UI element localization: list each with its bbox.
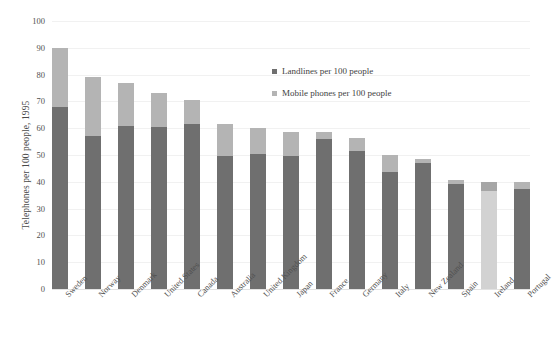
bar-denmark[interactable] bbox=[118, 21, 134, 289]
bar-portugal[interactable] bbox=[514, 21, 530, 289]
segment-landline bbox=[151, 127, 167, 289]
bar-new-zealand[interactable] bbox=[415, 21, 431, 289]
legend-label: Mobile phones per 100 people bbox=[282, 88, 391, 98]
segment-mobile bbox=[316, 132, 332, 139]
segment-landline bbox=[481, 191, 497, 289]
segment-mobile bbox=[349, 138, 365, 151]
y-tick-70: 70 bbox=[37, 96, 46, 106]
bar-united-kingdom[interactable] bbox=[250, 21, 266, 289]
segment-landline bbox=[217, 156, 233, 289]
legend-label: Landlines per 100 people bbox=[282, 66, 373, 76]
segment-mobile bbox=[217, 124, 233, 156]
segment-landline bbox=[52, 107, 68, 289]
chart-legend: Landlines per 100 peopleMobile phones pe… bbox=[272, 66, 391, 98]
bar-italy[interactable] bbox=[382, 21, 398, 289]
segment-landline bbox=[316, 139, 332, 289]
y-tick-30: 30 bbox=[37, 204, 46, 214]
bar-ireland[interactable] bbox=[481, 21, 497, 289]
y-tick-0: 0 bbox=[41, 284, 45, 294]
legend-swatch-mobile-icon bbox=[272, 91, 277, 96]
segment-mobile bbox=[382, 155, 398, 172]
segment-mobile bbox=[184, 100, 200, 124]
segment-landline bbox=[349, 151, 365, 289]
bar-germany[interactable] bbox=[349, 21, 365, 289]
bar-series-container bbox=[52, 21, 530, 289]
y-tick-40: 40 bbox=[37, 177, 46, 187]
x-axis-category-labels: SwedenNorwayDenmarkUnited StatesCanadaAu… bbox=[52, 292, 530, 364]
segment-mobile bbox=[85, 77, 101, 136]
segment-landline bbox=[118, 126, 134, 289]
bar-norway[interactable] bbox=[85, 21, 101, 289]
plot-area bbox=[52, 21, 530, 289]
bar-united-states[interactable] bbox=[151, 21, 167, 289]
segment-mobile bbox=[250, 128, 266, 153]
legend-swatch-landline-icon bbox=[272, 69, 277, 74]
bar-spain[interactable] bbox=[448, 21, 464, 289]
bar-australia[interactable] bbox=[217, 21, 233, 289]
segment-landline bbox=[415, 163, 431, 289]
y-tick-60: 60 bbox=[37, 123, 46, 133]
bar-france[interactable] bbox=[316, 21, 332, 289]
y-tick-10: 10 bbox=[37, 257, 46, 267]
gridline-0 bbox=[52, 289, 530, 290]
y-tick-100: 100 bbox=[32, 16, 45, 26]
y-tick-80: 80 bbox=[37, 70, 46, 80]
bar-canada[interactable] bbox=[184, 21, 200, 289]
segment-landline bbox=[85, 136, 101, 289]
legend-item-landline[interactable]: Landlines per 100 people bbox=[272, 66, 391, 76]
y-tick-50: 50 bbox=[37, 150, 46, 160]
segment-mobile bbox=[118, 83, 134, 126]
bar-japan[interactable] bbox=[283, 21, 299, 289]
segment-mobile bbox=[151, 93, 167, 127]
segment-landline bbox=[514, 189, 530, 290]
bar-sweden[interactable] bbox=[52, 21, 68, 289]
segment-landline bbox=[250, 154, 266, 289]
y-tick-90: 90 bbox=[37, 43, 46, 53]
y-tick-20: 20 bbox=[37, 230, 46, 240]
segment-mobile bbox=[481, 182, 497, 191]
segment-mobile bbox=[514, 182, 530, 189]
segment-mobile bbox=[52, 48, 68, 107]
legend-item-mobile[interactable]: Mobile phones per 100 people bbox=[272, 88, 391, 98]
segment-mobile bbox=[283, 132, 299, 156]
y-axis-tick-labels: 1009080706050403020100 bbox=[0, 21, 52, 289]
